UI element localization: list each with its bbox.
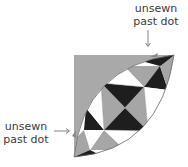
arrow-right-icon	[54, 129, 70, 134]
quilt-block-diagram	[0, 0, 188, 167]
arrow-down-icon	[146, 30, 151, 47]
